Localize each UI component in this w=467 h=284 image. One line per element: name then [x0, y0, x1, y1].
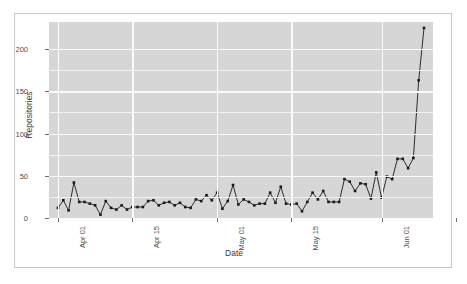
data-point	[375, 171, 378, 174]
data-point	[322, 190, 325, 193]
data-point	[62, 199, 65, 202]
data-point	[306, 201, 309, 204]
data-point	[269, 191, 272, 194]
chart-figure: Repositories Date 050100150200Apr 01Apr …	[14, 13, 452, 268]
data-point	[179, 201, 182, 204]
repositories-line-series	[49, 22, 433, 218]
data-point	[189, 207, 192, 210]
data-point	[258, 202, 261, 205]
data-point	[301, 210, 304, 213]
y-tick-label: 200	[15, 45, 28, 54]
gridline-horizontal-minor	[49, 112, 433, 113]
data-point	[110, 207, 113, 210]
data-point	[157, 204, 160, 207]
gridline-vertical	[58, 22, 59, 218]
gridline-horizontal	[49, 176, 433, 177]
data-point	[163, 201, 166, 204]
gridline-vertical	[132, 22, 133, 218]
gridline-vertical	[291, 22, 292, 218]
gridline-horizontal-minor	[49, 197, 433, 198]
data-point	[226, 200, 229, 203]
data-point	[348, 180, 351, 183]
data-point	[104, 200, 107, 203]
x-tick-mark	[217, 218, 218, 222]
y-axis-title: Repositories	[24, 55, 34, 175]
data-point	[311, 191, 314, 194]
y-tick-label: 0	[24, 214, 28, 223]
data-point	[99, 213, 102, 216]
data-point	[333, 201, 336, 204]
data-point	[120, 204, 123, 207]
data-point	[173, 204, 176, 207]
y-tick-label: 100	[15, 129, 28, 138]
data-point	[73, 181, 76, 184]
data-point	[147, 200, 150, 203]
gridline-horizontal	[49, 91, 433, 92]
x-tick-mark	[291, 218, 292, 222]
data-point	[78, 201, 81, 204]
plot-panel	[49, 22, 433, 218]
data-point	[338, 201, 341, 204]
y-tick-label: 150	[15, 87, 28, 96]
x-tick-mark	[456, 218, 457, 222]
data-point	[274, 201, 277, 204]
data-point	[115, 208, 118, 211]
y-tick-mark	[45, 218, 49, 219]
data-point	[242, 198, 245, 201]
data-point	[407, 167, 410, 170]
data-point	[391, 178, 394, 181]
data-point	[152, 199, 155, 202]
gridline-horizontal-minor	[49, 70, 433, 71]
data-point	[211, 199, 214, 202]
data-point	[279, 185, 282, 188]
x-tick-label: Apr 01	[78, 226, 87, 266]
data-point	[94, 204, 97, 207]
data-point	[168, 201, 171, 204]
data-point	[237, 203, 240, 206]
data-point	[232, 184, 235, 187]
data-point	[354, 190, 357, 193]
gridline-vertical	[382, 22, 383, 218]
data-point	[417, 79, 420, 82]
data-point	[264, 202, 267, 205]
data-point	[136, 206, 139, 209]
data-point	[364, 183, 367, 186]
gridline-vertical	[217, 22, 218, 218]
data-point	[221, 207, 224, 210]
gridline-horizontal	[49, 49, 433, 50]
series-line	[58, 28, 424, 215]
x-tick-label: May 01	[237, 226, 246, 266]
x-tick-label: Jun 01	[402, 226, 411, 266]
data-point	[285, 202, 288, 205]
x-tick-mark	[382, 218, 383, 222]
data-point	[343, 178, 346, 181]
data-point	[423, 27, 426, 30]
x-tick-label: Apr 15	[152, 226, 161, 266]
data-point	[396, 158, 399, 161]
data-point	[401, 158, 404, 161]
x-tick-mark	[132, 218, 133, 222]
data-point	[412, 157, 415, 160]
data-point	[195, 198, 198, 201]
data-point	[83, 201, 86, 204]
data-point	[359, 182, 362, 185]
data-point	[200, 200, 203, 203]
y-tick-label: 50	[20, 171, 28, 180]
x-tick-label: May 15	[311, 226, 320, 266]
x-tick-mark	[58, 218, 59, 222]
data-point	[295, 202, 298, 205]
data-point	[89, 202, 92, 205]
data-point	[142, 206, 145, 209]
gridline-horizontal-minor	[49, 155, 433, 156]
data-point	[67, 209, 70, 212]
data-point	[126, 208, 129, 211]
data-point	[317, 198, 320, 201]
gridline-horizontal	[49, 134, 433, 135]
data-point	[253, 204, 256, 207]
data-point	[327, 201, 330, 204]
data-point	[184, 206, 187, 209]
data-point	[248, 201, 251, 204]
